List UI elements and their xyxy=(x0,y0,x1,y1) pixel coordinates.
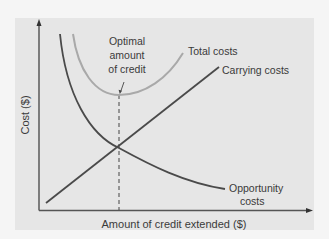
y-axis-label: Cost ($) xyxy=(19,95,31,134)
optimal-label-line-3: of credit xyxy=(108,63,145,75)
opportunity-costs-label-line-1: Opportunity xyxy=(229,182,284,194)
carrying-costs-label: Carrying costs xyxy=(222,64,289,76)
x-axis-label: Amount of credit extended ($) xyxy=(102,218,247,230)
credit-cost-chart: Optimal amount of credit Total costs Car… xyxy=(0,0,329,239)
optimal-label-line-2: amount xyxy=(109,49,144,61)
chart-panel xyxy=(15,18,314,230)
opportunity-costs-label-line-2: costs xyxy=(240,195,265,207)
optimal-label-line-1: Optimal xyxy=(109,35,145,47)
total-costs-label: Total costs xyxy=(188,45,238,57)
